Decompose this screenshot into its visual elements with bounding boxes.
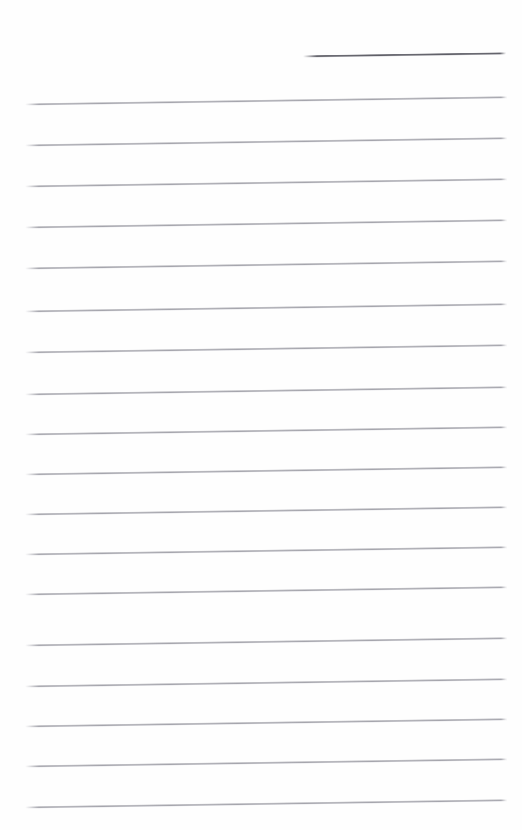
paper-sheet: [0, 0, 522, 830]
document-page: [0, 0, 522, 830]
